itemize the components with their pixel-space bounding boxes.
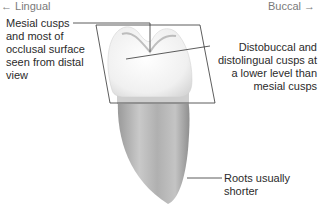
lingual-direction-label: ← Lingual	[1, 0, 51, 12]
roots-label: Roots usually shorter	[224, 172, 323, 198]
buccal-direction-label: Buccal →	[268, 0, 315, 12]
root	[118, 98, 190, 204]
distal-cusps-label: Distobuccal and distolingual cusps at a …	[218, 41, 317, 93]
mesial-cusps-label: Mesial cusps and most of occlusal surfac…	[6, 17, 85, 82]
